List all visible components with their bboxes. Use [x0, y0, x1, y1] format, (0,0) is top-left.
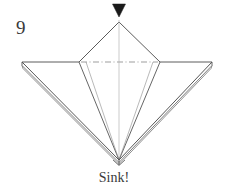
inner-left-edge — [79, 62, 119, 160]
left-wing-layers — [22, 62, 119, 165]
right-wing-layer-3 — [119, 69, 211, 165]
right-wing-layers — [119, 62, 212, 165]
upper-kite-group — [79, 22, 160, 62]
caption-sink: Sink! — [0, 170, 228, 185]
origami-figure: 9 Sink! — [0, 0, 228, 194]
upper-left-fold-edge — [79, 22, 119, 62]
sink-arrow-icon — [113, 4, 126, 17]
origami-diagram — [0, 0, 228, 194]
left-wing-layer-1 — [22, 62, 119, 160]
right-wing-layer-2 — [119, 66, 212, 163]
sink-arrow-head — [113, 4, 126, 17]
right-wing-layer-1 — [119, 62, 212, 160]
left-wing-layer-2 — [22, 66, 119, 163]
step-number: 9 — [16, 18, 26, 37]
upper-right-fold-edge — [119, 22, 160, 62]
inner-triangle-group — [79, 62, 160, 160]
inner-right-edge — [119, 62, 160, 160]
inner-left-crease — [86, 62, 119, 160]
